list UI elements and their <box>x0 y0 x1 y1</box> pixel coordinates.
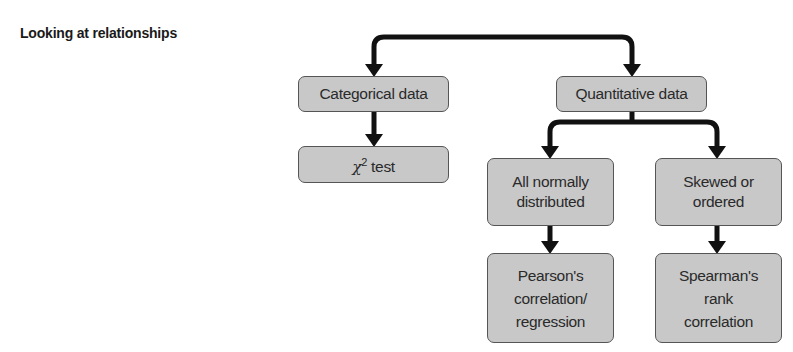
node-label-line: ordered <box>693 192 744 212</box>
root-connector <box>374 37 632 66</box>
node-label-line: correlation/ <box>514 287 587 310</box>
node-label: Categorical data <box>319 84 427 104</box>
chi-symbol: χ2 <box>352 158 367 176</box>
node-label-line: Spearman's <box>679 264 758 287</box>
node-label-line: regression <box>516 310 585 333</box>
node-label-line: rank <box>704 287 733 310</box>
node-label-line: Skewed or <box>683 172 754 192</box>
pearsons-correlation-node: Pearson's correlation/ regression <box>487 253 614 343</box>
spearmans-rank-correlation-node: Spearman's rank correlation <box>655 253 782 343</box>
node-label: Quantitative data <box>575 84 687 104</box>
node-label-line: All normally <box>512 172 589 192</box>
quantitative-data-node: Quantitative data <box>556 76 707 112</box>
node-label-line: distributed <box>516 192 584 212</box>
node-label-line: Pearson's <box>518 264 584 287</box>
node-label-line: correlation <box>684 310 753 333</box>
all-normally-distributed-node: All normally distributed <box>487 158 614 226</box>
chi-square-test-node: χ2 test <box>298 146 449 183</box>
node-label: χ2 test <box>352 152 395 177</box>
skewed-or-ordered-node: Skewed or ordered <box>655 158 782 226</box>
categorical-data-node: Categorical data <box>298 76 449 112</box>
